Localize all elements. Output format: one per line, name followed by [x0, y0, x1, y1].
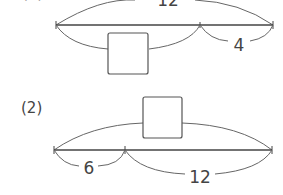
problem-1: (1) 12 4 [22, 0, 273, 74]
total-arc-right [195, 0, 273, 25]
total-arc-left [56, 0, 135, 25]
answer-box-1[interactable] [108, 33, 148, 74]
total-arc-left [54, 123, 143, 150]
known-arc-right [250, 25, 273, 41]
total-value: 12 [157, 0, 179, 10]
part-right-value: 12 [189, 167, 211, 187]
tape-diagram-canvas: (1) 12 4 (2) 6 12 [0, 0, 283, 195]
answer-box-2[interactable] [143, 97, 182, 138]
part-right-arc-left [125, 150, 185, 174]
unknown-arc-left [56, 25, 108, 49]
problem-1-label: (1) [22, 0, 43, 2]
part-left-arc-right [98, 150, 125, 166]
part-left-value: 6 [84, 158, 95, 178]
known-arc-left [200, 25, 228, 41]
part-left-arc-left [54, 150, 79, 166]
known-value: 4 [234, 35, 245, 55]
problem-2: (2) 6 12 [21, 97, 272, 187]
problem-2-label: (2) [21, 99, 42, 117]
part-right-arc-right [215, 150, 272, 174]
unknown-arc-right [149, 25, 200, 49]
total-arc-right [182, 123, 272, 150]
